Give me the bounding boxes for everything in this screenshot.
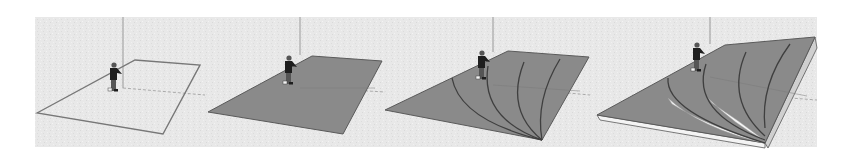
person-head — [694, 42, 699, 47]
person-shoe — [482, 77, 486, 80]
person-head — [479, 50, 484, 55]
person-shoe — [697, 69, 701, 72]
figure-canvas: Rectangle outline drawn on ground planeR… — [0, 0, 849, 158]
person-head — [111, 62, 116, 67]
person-shoe — [283, 81, 287, 84]
person-head — [286, 55, 291, 60]
person-shoe — [476, 76, 480, 79]
modeling-sequence-figure: Four-step 3D modeling sequence of a slop… — [0, 0, 849, 158]
person-shoe — [114, 89, 118, 92]
person-shoe — [108, 88, 112, 91]
person-shoe — [691, 68, 695, 71]
person-shoe — [289, 82, 293, 85]
